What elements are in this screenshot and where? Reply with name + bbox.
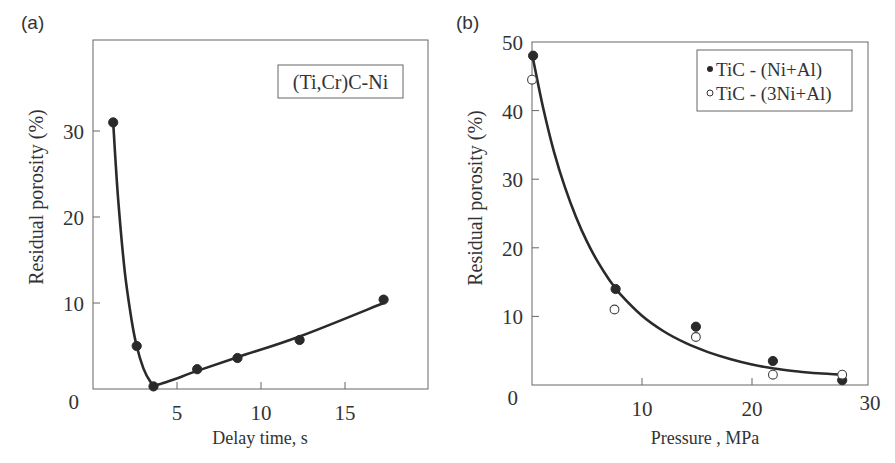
y-tick-label: 10 <box>63 292 84 316</box>
axis-ticks-a: 510151020300 <box>63 120 356 425</box>
x-tick-label: 30 <box>860 391 881 415</box>
figure-canvas: 510151020300 (Ti,Cr)C-Ni Delay time, s R… <box>0 0 895 463</box>
open-circle-marker <box>528 75 537 84</box>
y-tick-label: 30 <box>502 168 523 192</box>
x-axis-label-a: Delay time, s <box>212 428 307 448</box>
filled-circle-marker <box>529 51 538 60</box>
x-tick-label: 15 <box>335 401 356 425</box>
y-tick-label: 50 <box>502 31 523 55</box>
y-axis-label-a: Residual porosity (%) <box>25 109 48 285</box>
filled-circle-marker <box>691 322 700 331</box>
open-circle-marker <box>610 305 619 314</box>
annotation-text-a: (Ti,Cr)C-Ni <box>293 71 389 94</box>
legend-b: TiC - (Ni+Al) TiC - (3Ni+Al) <box>697 50 852 111</box>
origin-label: 0 <box>69 390 80 414</box>
x-tick-label: 10 <box>251 401 272 425</box>
open-circle-marker <box>692 333 701 342</box>
legend-entry-2: TiC - (3Ni+Al) <box>716 83 832 105</box>
filled-circle-marker <box>295 335 304 344</box>
origin-label: 0 <box>508 386 519 410</box>
data-points-a <box>109 118 389 391</box>
filled-circle-marker <box>233 353 242 362</box>
x-tick-label: 5 <box>172 401 183 425</box>
filled-circle-marker <box>132 341 141 350</box>
x-tick-label: 20 <box>742 397 763 421</box>
x-tick-label: 10 <box>632 397 653 421</box>
filled-circle-marker <box>379 295 388 304</box>
open-circle-marker <box>838 370 847 379</box>
filled-circle-marker <box>109 118 118 127</box>
chart-b: 10203010203040500 TiC - (Ni+Al) TiC - (3… <box>464 31 881 448</box>
open-circle-marker <box>769 370 778 379</box>
y-tick-label: 20 <box>63 206 84 230</box>
y-tick-label: 40 <box>502 100 523 124</box>
y-axis-label-b: Residual porosity (%) <box>464 110 487 286</box>
filled-circle-marker <box>611 284 620 293</box>
filled-circle-marker <box>768 356 777 365</box>
y-tick-label: 10 <box>502 305 523 329</box>
y-tick-label: 20 <box>502 237 523 261</box>
fit-curve-a <box>113 122 383 385</box>
chart-a: 510151020300 (Ti,Cr)C-Ni Delay time, s R… <box>25 40 428 448</box>
y-tick-label: 30 <box>63 120 84 144</box>
filled-circle-marker <box>149 382 158 391</box>
legend-entry-1: TiC - (Ni+Al) <box>716 59 822 81</box>
legend-filled-circle-icon <box>707 66 713 72</box>
filled-circle-marker <box>193 365 202 374</box>
x-axis-label-b: Pressure , MPa <box>651 428 760 448</box>
